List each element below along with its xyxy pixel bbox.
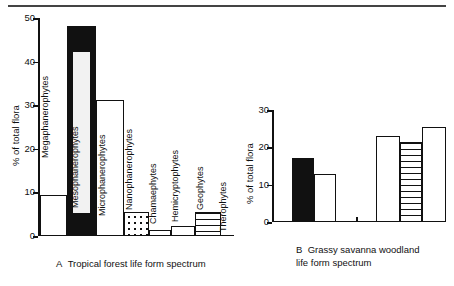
bar-label-megaphanerophytes-a: Megaphanerophytes xyxy=(41,76,50,158)
bar-mesophanerophytes-b[interactable] xyxy=(292,158,314,222)
bar-label-microphanerophytes-a: Microphanerophytes xyxy=(98,134,107,216)
chart-a-tick-label-50: 50 xyxy=(24,13,35,23)
chart-a-bars: Megaphanerophytes Mesophanerophytes Micr… xyxy=(38,18,234,236)
bar-nanophanerophytes-a[interactable] xyxy=(124,212,149,236)
chart-b-tick-label-30: 30 xyxy=(258,105,269,115)
chart-a-tick-label-20: 20 xyxy=(24,144,35,154)
figure-root: % of total flora 50 40 30 20 10 0 Megaph… xyxy=(0,0,454,286)
chart-b-bars xyxy=(272,110,436,222)
chart-b-caption: B Grassy savanna woodland life form spec… xyxy=(296,230,420,269)
bar-therophytes-b[interactable] xyxy=(422,127,446,222)
bar-microphanerophytes-b[interactable] xyxy=(314,174,336,222)
chart-b-plot-area: 30 20 10 0 xyxy=(272,110,436,222)
bar-label-therophytes-a: Therophytes xyxy=(219,182,228,232)
chart-a-tick-label-40: 40 xyxy=(24,57,35,67)
bar-label-mesophanerophytes-a: Mesophanerophytes xyxy=(71,126,80,208)
bar-geophytes-b[interactable] xyxy=(400,142,422,222)
bar-label-chamaephytes-a: Chamaephytes xyxy=(149,163,158,224)
chart-a-plot-area: 50 40 30 20 10 0 Megaphanerophytes Mesop… xyxy=(38,18,234,236)
chart-a-tick-label-30: 30 xyxy=(24,100,35,110)
chart-b-tick-label-0: 0 xyxy=(264,217,269,227)
chart-b-caption-text: Grassy savanna woodland life form spectr… xyxy=(296,244,420,268)
bar-megaphanerophytes-a[interactable] xyxy=(40,195,67,236)
chart-b-tick-label-10: 10 xyxy=(258,180,269,190)
chart-a-caption: A Tropical forest life form spectrum xyxy=(56,244,206,270)
chart-b-y-axis-label: % of total flora xyxy=(244,143,255,204)
top-rule-divider xyxy=(8,5,446,7)
chart-a-y-axis-label: % of total flora xyxy=(10,105,21,166)
bar-label-geophytes-a: Geophytes xyxy=(196,166,205,210)
chart-a-caption-text: Tropical forest life form spectrum xyxy=(68,258,206,269)
bar-label-nanophanerophytes-a: Nanophanerophytes xyxy=(125,129,134,210)
bar-hemicryptophytes-a[interactable] xyxy=(171,226,195,236)
chart-a-tick-label-0: 0 xyxy=(30,231,35,241)
chart-a-tick-label-10: 10 xyxy=(24,188,35,198)
bar-chamaephytes-b[interactable] xyxy=(356,217,358,222)
chart-a-tropical-forest: % of total flora 50 40 30 20 10 0 Megaph… xyxy=(38,18,234,236)
bar-label-hemicryptophytes-a: Hemicryptophytes xyxy=(171,150,180,222)
chart-b-tick-label-20: 20 xyxy=(258,143,269,153)
chart-b-grassy-savanna: % of total flora 30 20 10 0 xyxy=(272,110,436,222)
bar-hemicryptophytes-b[interactable] xyxy=(376,136,400,222)
bar-chamaephytes-a[interactable] xyxy=(149,230,171,236)
